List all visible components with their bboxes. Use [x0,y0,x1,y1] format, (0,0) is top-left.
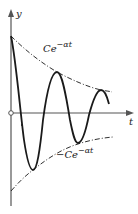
y-axis-label: y [15,8,22,19]
t-axis-label: t [129,116,134,127]
damped-oscillation-diagram: y t Ce−αt −Ce−αt [0,0,138,214]
origin-marker [9,111,14,116]
lower-envelope-curve [11,137,113,191]
upper-envelope-label: Ce−αt [43,40,73,54]
y-axis-arrow-icon [8,9,14,17]
lower-envelope-label: −Ce−αt [56,146,94,160]
